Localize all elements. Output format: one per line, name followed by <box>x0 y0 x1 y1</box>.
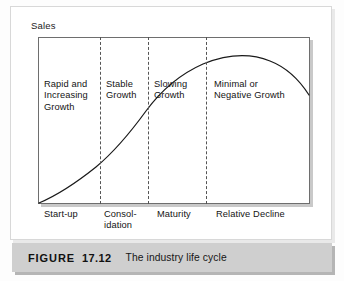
y-axis-title: Sales <box>31 20 56 31</box>
stage-divider-3 <box>206 37 207 204</box>
stage-divider-1 <box>100 37 101 204</box>
figure-container: Sales Rapid and Increasing Growth Stable… <box>0 0 344 281</box>
stage-label-relative-decline: Relative Decline <box>216 209 285 220</box>
stage-label-consolidation: Consol- idation <box>104 209 137 231</box>
phase-label-consolidation: Stable Growth <box>106 79 137 102</box>
stage-label-start-up: Start-up <box>44 209 78 220</box>
caption-figure-number: 17.12 <box>82 252 112 264</box>
plot-area: Rapid and Increasing Growth Stable Growt… <box>38 37 310 204</box>
caption-figure-word: FIGURE <box>28 252 75 264</box>
phase-label-start-up: Rapid and Increasing Growth <box>44 79 88 113</box>
caption-title: The industry life cycle <box>126 252 227 263</box>
phase-label-maturity: Slowing Growth <box>154 79 187 102</box>
caption-bar: FIGURE 17.12 The industry life cycle <box>12 243 332 272</box>
stage-divider-2 <box>148 37 149 204</box>
sales-curve <box>38 37 310 204</box>
phase-label-relative-decline: Minimal or Negative Growth <box>214 79 285 102</box>
stage-label-maturity: Maturity <box>157 209 191 220</box>
